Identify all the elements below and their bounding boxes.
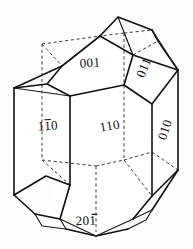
label-001: 001: [79, 54, 101, 70]
label-group-20bar1: 201: [75, 213, 97, 229]
hidden-edge-top-back-right-outer: [124, 30, 152, 33]
edge-bottom-left-trunc-top: [35, 214, 60, 219]
label-group-001: 001: [79, 54, 101, 70]
crystal-drawing: 001 011 110 110 010 201: [0, 0, 193, 249]
hidden-edge-top-back-left: [42, 44, 62, 66]
face-fill-front-prism-110: [70, 85, 152, 196]
crystal-figure: 001 011 110 110 010 201: [0, 0, 193, 249]
edge-bottom-left-down: [14, 195, 35, 214]
label-20bar1: 201: [75, 213, 96, 229]
hidden-edge-top-back-apex-right: [100, 33, 124, 36]
label-group-1bar10: 110: [37, 117, 58, 133]
